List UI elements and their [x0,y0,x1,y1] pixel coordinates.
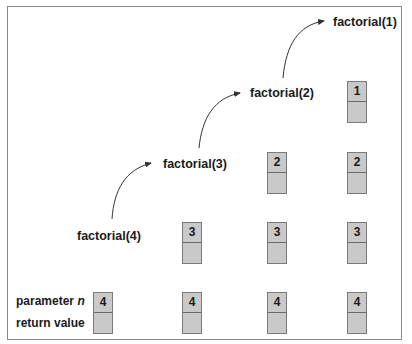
stack-frame: 4 [347,292,367,334]
return-value-cell [268,313,286,333]
return-value-cell [348,173,366,193]
arrow-4-to-3 [112,163,151,219]
parameter-cell: 4 [348,293,366,313]
stack-frame: 2 [267,152,287,194]
parameter-cell: 2 [268,153,286,173]
call-label-factorial-3: factorial(3) [163,157,227,171]
call-label-factorial-2: factorial(2) [250,86,314,100]
return-value-cell [183,313,201,333]
return-value-cell [268,243,286,263]
stack-frame: 2 [347,152,367,194]
return-value-cell [348,313,366,333]
return-value-cell [268,173,286,193]
parameter-cell: 3 [183,223,201,243]
arrow-3-to-2 [199,93,240,148]
return-value-cell [348,243,366,263]
parameter-cell: 3 [268,223,286,243]
stack-frame: 3 [347,222,367,264]
stack-frame: 3 [182,222,202,264]
parameter-cell: 4 [183,293,201,313]
stack-frame: 4 [267,292,287,334]
stack-frame: 4 [93,292,113,334]
stack-frame: 3 [267,222,287,264]
parameter-cell: 4 [94,293,112,313]
parameter-cell: 4 [268,293,286,313]
return-value-cell [348,102,366,122]
call-label-factorial-1: factorial(1) [333,15,397,29]
call-label-factorial-4: factorial(4) [77,229,141,243]
return-value-cell [94,313,112,333]
stack-frame: 4 [182,292,202,334]
stack-frame: 1 [347,81,367,123]
parameter-n-label: parameter n [16,294,85,308]
parameter-cell: 2 [348,153,366,173]
return-value-label: return value [16,316,85,330]
return-value-cell [183,243,201,263]
parameter-cell: 3 [348,223,366,243]
arrow-2-to-1 [283,21,324,78]
parameter-cell: 1 [348,82,366,102]
